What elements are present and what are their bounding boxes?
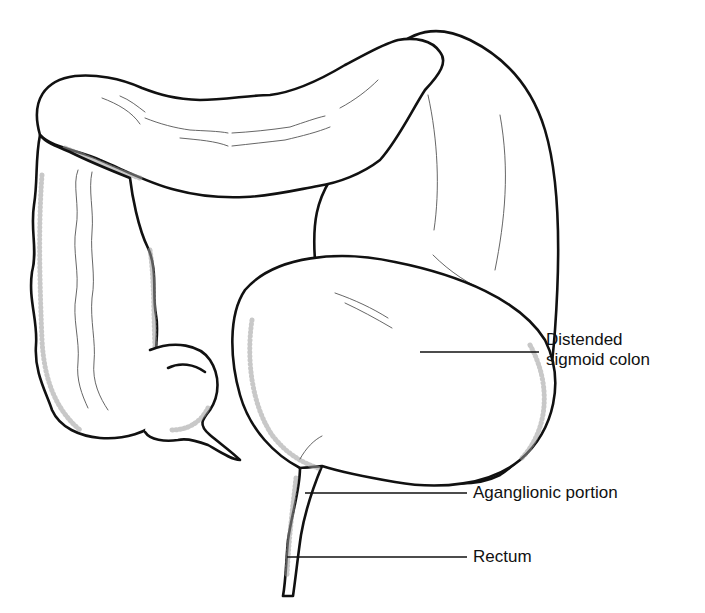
cecum-appendix <box>145 345 240 460</box>
label-rectum: Rectum <box>473 547 532 567</box>
colon-diagram <box>0 0 705 613</box>
label-distended-sigmoid-colon: Distended sigmoid colon <box>546 330 650 370</box>
label-text: Aganglionic portion <box>473 483 618 502</box>
label-line-1: Distended <box>546 330 650 350</box>
rectum-segment <box>283 466 322 596</box>
label-line-2: sigmoid colon <box>546 350 650 370</box>
label-text: Rectum <box>473 547 532 566</box>
label-aganglionic-portion: Aganglionic portion <box>473 483 618 503</box>
